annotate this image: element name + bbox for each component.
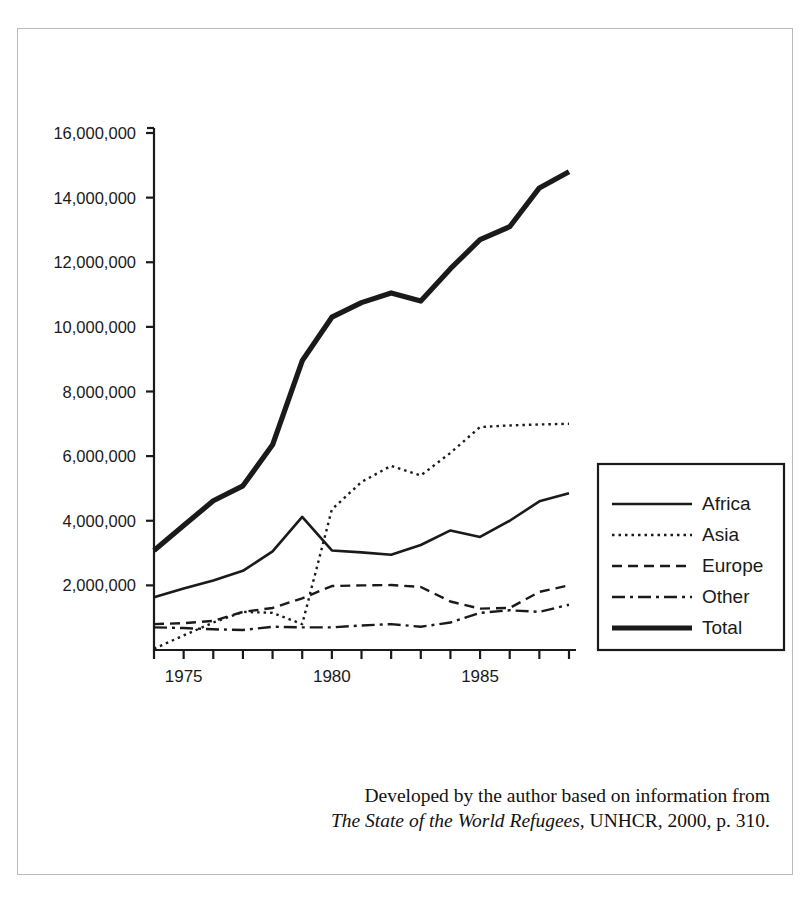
legend-label-africa: Africa bbox=[702, 493, 751, 514]
legend-label-asia: Asia bbox=[702, 524, 739, 545]
y-axis-tick-labels: 2,000,0004,000,0006,000,0008,000,00010,0… bbox=[53, 124, 136, 594]
y-tick-label: 12,000,000 bbox=[53, 253, 136, 271]
line-chart: 2,000,0004,000,0006,000,0008,000,00010,0… bbox=[0, 0, 810, 901]
caption-source-title: The State of the World Refugees bbox=[331, 810, 580, 831]
chart-axes bbox=[146, 128, 576, 659]
y-tick-label: 6,000,000 bbox=[63, 447, 136, 465]
caption-line-2: The State of the World Refugees, UNHCR, … bbox=[0, 808, 770, 833]
y-tick-label: 4,000,000 bbox=[63, 512, 136, 530]
x-tick-label: 1985 bbox=[461, 667, 499, 686]
series-line-europe bbox=[154, 585, 569, 624]
y-tick-label: 16,000,000 bbox=[53, 124, 136, 142]
legend-label-europe: Europe bbox=[702, 555, 763, 576]
plot-series-group bbox=[154, 172, 569, 649]
y-tick-label: 10,000,000 bbox=[53, 318, 136, 336]
legend: AfricaAsiaEuropeOtherTotal bbox=[598, 464, 784, 650]
series-line-africa bbox=[154, 493, 569, 597]
y-tick-label: 8,000,000 bbox=[63, 383, 136, 401]
legend-label-other: Other bbox=[702, 586, 750, 607]
x-tick-label: 1975 bbox=[165, 667, 203, 686]
x-tick-label: 1980 bbox=[313, 667, 351, 686]
axis-lines bbox=[154, 128, 576, 650]
series-line-total bbox=[154, 172, 569, 551]
caption-line-1: Developed by the author based on informa… bbox=[0, 783, 770, 808]
series-line-other bbox=[154, 605, 569, 630]
legend-label-total: Total bbox=[702, 617, 742, 638]
chart-svg: 2,000,0004,000,0006,000,0008,000,00010,0… bbox=[0, 0, 810, 901]
y-tick-label: 14,000,000 bbox=[53, 189, 136, 207]
figure-page: 2,000,0004,000,0006,000,0008,000,00010,0… bbox=[0, 0, 810, 901]
caption-source-rest: , UNHCR, 2000, p. 310. bbox=[580, 810, 770, 831]
figure-caption: Developed by the author based on informa… bbox=[0, 783, 770, 833]
series-line-asia bbox=[154, 424, 569, 649]
x-axis-tick-labels: 197519801985 bbox=[165, 667, 499, 686]
y-tick-label: 2,000,000 bbox=[63, 576, 136, 594]
